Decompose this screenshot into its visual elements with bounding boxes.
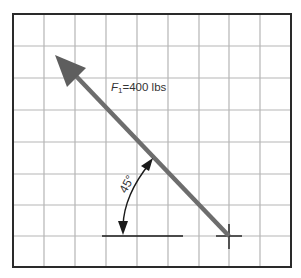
force-arrow-shaft [76,76,229,236]
grid-border [13,14,291,267]
grid [13,14,291,267]
force-diagram: 45° F1=400 lbs [0,0,301,278]
force-value: =400 lbs [122,81,166,93]
force-label: F1=400 lbs [111,81,167,95]
angle-label: 45° [116,173,137,196]
angle-arc-arrowhead-bottom-icon [118,221,128,235]
angle-arc-arrowhead-top-icon [141,158,153,171]
